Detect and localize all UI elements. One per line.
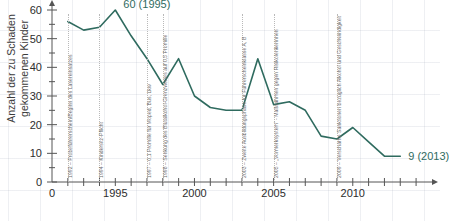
annotation-label: 2003 – Zweite Ausbildungsphase für Führe… bbox=[241, 37, 247, 178]
y-tick-label: 50 bbox=[18, 34, 42, 44]
x-tick-label: 2000 bbox=[174, 188, 214, 199]
x-tick-label: 1995 bbox=[95, 188, 135, 199]
x-origin-label: 0 bbox=[32, 188, 72, 199]
annotation-label: 1992 – Probeführerschein/Beginn des Lase… bbox=[67, 54, 73, 178]
annotation-label: 2009 – Verschärfte Sanktionen bezüglich … bbox=[336, 16, 342, 178]
annotation-label: 1998 – Senkung des Blutalkohol-Grenzwert… bbox=[162, 35, 168, 178]
x-tick-label: 2005 bbox=[254, 188, 294, 199]
y-tick-label: 30 bbox=[18, 91, 42, 101]
data-series-line bbox=[68, 10, 401, 156]
y-tick-label: 10 bbox=[18, 148, 42, 158]
y-tick-label: 40 bbox=[18, 62, 42, 72]
y-tick-label: 20 bbox=[18, 120, 42, 130]
annotation-label: 2005 – „Vormerksystem“ - Maßnahmen gegen… bbox=[273, 29, 279, 178]
annotation-label: 1997 – 0,1 Promille für Moped, Bus, Lkw bbox=[146, 84, 152, 178]
y-tick-label: 0 bbox=[18, 177, 42, 187]
y-tick-label: 60 bbox=[18, 5, 42, 15]
annotation-label: 1994 – Kindersitz-Pflicht bbox=[98, 122, 104, 178]
data-point-label: 60 (1995) bbox=[123, 0, 170, 10]
x-tick-label: 2010 bbox=[333, 188, 373, 199]
data-point-label: 9 (2013) bbox=[408, 150, 449, 162]
